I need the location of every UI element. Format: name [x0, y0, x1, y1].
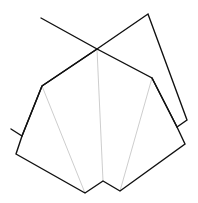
background: [0, 0, 198, 203]
folded-squares-diagram: [0, 0, 198, 203]
